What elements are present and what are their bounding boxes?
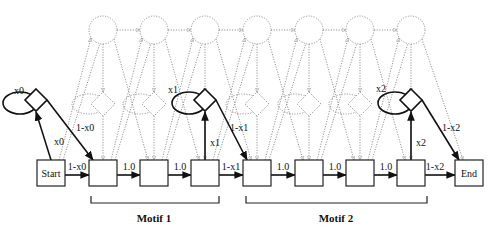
insert-state-circle <box>140 16 168 44</box>
match-state-box <box>295 160 323 186</box>
edge-label: 1.0 <box>329 161 342 172</box>
motif-brackets: Motif 1 Motif 2 <box>91 196 427 224</box>
motif-1-label: Motif 1 <box>137 212 172 224</box>
insert-state-circle <box>346 16 374 44</box>
match-state-box <box>89 160 117 186</box>
match-state-box <box>140 160 168 186</box>
motif-2-bracket <box>246 196 427 203</box>
diagram-canvas: Start End 1-x0 1.0 1.0 1-x1 1.0 1.0 1.0 … <box>0 0 491 234</box>
delete-state-diamond <box>297 92 321 116</box>
box-to-circle-edge <box>265 38 297 160</box>
insert-state-circle <box>191 16 219 44</box>
circle-to-box-edge <box>320 39 354 160</box>
match-state-box <box>243 160 271 186</box>
insert-state-circle <box>89 16 117 44</box>
insert-state-circle <box>397 16 425 44</box>
edge-label: 1-x1 <box>222 161 240 172</box>
edge-label: 1.0 <box>123 161 136 172</box>
loop-label-x1: x1 <box>168 84 178 95</box>
silent-state-diamond <box>194 89 216 111</box>
edge-label: 1-x2 <box>426 161 444 172</box>
box-to-circle-edge <box>368 38 399 160</box>
delete-state-diamond <box>91 92 115 116</box>
up-transition-edge <box>36 112 51 160</box>
delete-state-diamond <box>348 92 372 116</box>
box-to-circle-edge <box>111 38 142 160</box>
motif-diagram: Start End 1-x0 1.0 1.0 1-x1 1.0 1.0 1.0 … <box>0 0 491 234</box>
circle-to-box-edge <box>114 39 148 160</box>
delete-state-diamond <box>245 92 269 116</box>
circle-to-box-edge <box>216 39 251 160</box>
loop-label-x2: x2 <box>376 83 386 94</box>
motif-2-label: Motif 2 <box>319 212 354 224</box>
edge-label: 1.0 <box>277 161 290 172</box>
motif-1-bracket <box>91 196 219 203</box>
match-states-layer: Start End <box>37 160 483 186</box>
start-label: Start <box>42 168 61 179</box>
dotted-transitions-layer <box>59 16 463 160</box>
edge-label: 1.0 <box>380 161 393 172</box>
match-state-box <box>191 160 219 186</box>
up-label-x0: x0 <box>54 136 64 147</box>
down-label-1-x0: 1-x0 <box>76 122 94 133</box>
insert-state-circle <box>243 16 271 44</box>
delete-state-diamond <box>142 92 166 116</box>
up-label-x2: x2 <box>416 137 426 148</box>
box-to-circle-edge <box>162 38 193 160</box>
loop-label-x0: x0 <box>14 85 24 96</box>
match-state-box <box>397 160 425 186</box>
box-to-circle-edge <box>317 38 348 160</box>
silent-state-diamond <box>25 89 47 111</box>
match-state-box <box>346 160 374 186</box>
edge-label: 1.0 <box>174 161 187 172</box>
circle-to-box-edge <box>268 39 303 160</box>
up-label-x1: x1 <box>210 137 220 148</box>
edge-label: 1-x0 <box>68 161 86 172</box>
insert-state-circle <box>295 16 323 44</box>
down-label-1-x2: 1-x2 <box>442 122 460 133</box>
end-label: End <box>461 168 477 179</box>
down-label-1-x1: 1-x1 <box>230 122 248 133</box>
circle-to-box-edge <box>422 39 463 160</box>
silent-state-diamond <box>400 89 422 111</box>
